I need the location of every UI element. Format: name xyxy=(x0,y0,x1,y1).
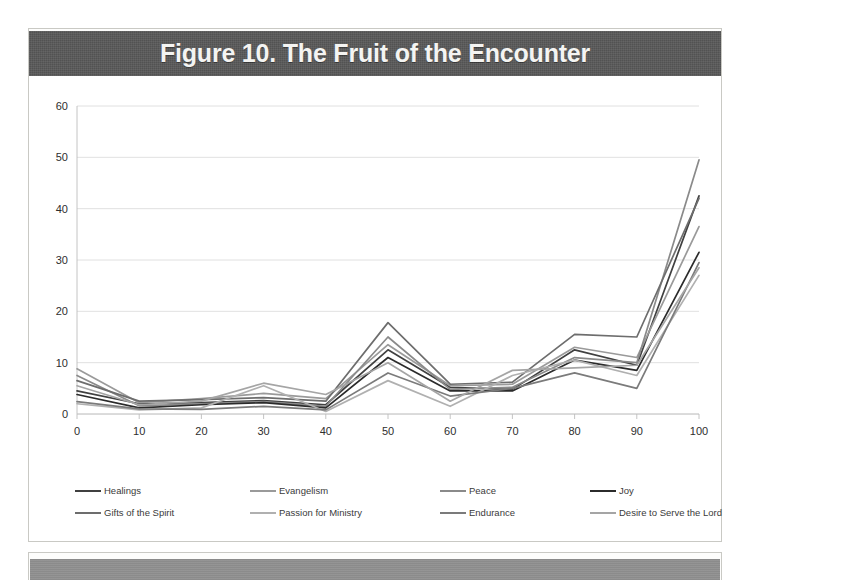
y-axis-tick-label: 50 xyxy=(56,151,68,163)
legend-item-gifts-of-the-spirit[interactable]: Gifts of the Spirit xyxy=(75,508,250,518)
legend-item-joy[interactable]: Joy xyxy=(590,486,715,496)
x-axis-tick-label: 0 xyxy=(74,425,80,437)
page-title: Figure 10. The Fruit of the Encounter xyxy=(160,39,590,68)
legend-item-desire-to-serve-the-lord[interactable]: Desire to Serve the Lord xyxy=(590,508,715,518)
x-axis-tick-label: 60 xyxy=(444,425,456,437)
series-line-passion-for-ministry xyxy=(77,275,699,411)
chart-legend: HealingsEvangelismPeaceJoy Gifts of the … xyxy=(75,480,715,524)
x-axis-tick-label: 50 xyxy=(382,425,394,437)
legend-item-label: Passion for Ministry xyxy=(279,508,362,518)
figure-title-banner: Figure 10. The Fruit of the Encounter xyxy=(29,31,721,76)
x-axis-tick-label: 30 xyxy=(257,425,269,437)
y-axis-tick-label: 60 xyxy=(56,100,68,112)
legend-row-1: HealingsEvangelismPeaceJoy xyxy=(75,480,715,502)
series-line-peace xyxy=(77,160,699,406)
legend-swatch-icon xyxy=(250,512,276,514)
legend-item-label: Evangelism xyxy=(279,486,328,496)
legend-item-label: Joy xyxy=(619,486,634,496)
x-axis-tick-label: 70 xyxy=(506,425,518,437)
series-line-evangelism xyxy=(77,227,699,403)
x-axis-tick-label: 80 xyxy=(568,425,580,437)
legend-swatch-icon xyxy=(75,490,101,492)
next-figure-banner xyxy=(30,559,720,580)
legend-item-peace[interactable]: Peace xyxy=(440,486,590,496)
y-axis-tick-label: 30 xyxy=(56,254,68,266)
legend-item-label: Healings xyxy=(104,486,141,496)
figure-page: Figure 10. The Fruit of the Encounter 01… xyxy=(0,0,850,580)
legend-item-endurance[interactable]: Endurance xyxy=(440,508,590,518)
x-axis-tick-label: 40 xyxy=(320,425,332,437)
legend-row-2: Gifts of the SpiritPassion for MinistryE… xyxy=(75,502,715,524)
y-axis-tick-label: 20 xyxy=(56,305,68,317)
y-axis-tick-label: 0 xyxy=(62,408,68,420)
x-axis-tick-label: 100 xyxy=(690,425,708,437)
chart-container: 01020304050600102030405060708090100 Heal… xyxy=(29,76,721,541)
y-axis-tick-label: 10 xyxy=(56,357,68,369)
legend-item-label: Desire to Serve the Lord xyxy=(619,508,722,518)
legend-swatch-icon xyxy=(440,490,466,492)
series-line-joy xyxy=(77,252,699,408)
legend-swatch-icon xyxy=(590,512,616,514)
legend-item-healings[interactable]: Healings xyxy=(75,486,250,496)
line-chart-plot: 01020304050600102030405060708090100 xyxy=(29,76,721,476)
next-figure-strip xyxy=(28,552,722,580)
legend-item-label: Gifts of the Spirit xyxy=(104,508,174,518)
series-line-gifts-of-the-spirit xyxy=(77,198,699,401)
legend-swatch-icon xyxy=(440,512,466,514)
legend-item-label: Peace xyxy=(469,486,496,496)
legend-item-passion-for-ministry[interactable]: Passion for Ministry xyxy=(250,508,440,518)
legend-swatch-icon xyxy=(75,512,101,514)
x-axis-tick-label: 10 xyxy=(133,425,145,437)
y-axis-tick-label: 40 xyxy=(56,203,68,215)
legend-swatch-icon xyxy=(250,490,276,492)
x-axis-tick-label: 90 xyxy=(631,425,643,437)
legend-item-evangelism[interactable]: Evangelism xyxy=(250,486,440,496)
legend-item-label: Endurance xyxy=(469,508,515,518)
legend-swatch-icon xyxy=(590,490,616,492)
x-axis-tick-label: 20 xyxy=(195,425,207,437)
